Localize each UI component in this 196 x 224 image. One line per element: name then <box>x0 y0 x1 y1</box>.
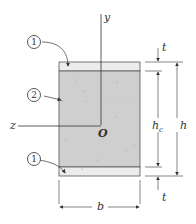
t-bottom-label: t <box>162 192 166 203</box>
material-1-bottom-marker: 1 <box>27 152 41 166</box>
origin-label: O <box>98 128 108 139</box>
material-2-marker: 2 <box>27 88 41 102</box>
hc-label: hc <box>152 120 163 134</box>
b-label: b <box>97 201 104 212</box>
z-axis-label: z <box>10 120 16 131</box>
material-1-top-marker: 1 <box>27 35 41 49</box>
core <box>59 71 140 167</box>
bottom-face-sheet <box>59 167 140 176</box>
top-face-sheet <box>59 62 140 71</box>
y-axis-label: y <box>104 12 110 23</box>
h-label: h <box>180 120 187 131</box>
t-top-label: t <box>162 42 166 53</box>
cross-section-drawing <box>0 0 196 224</box>
